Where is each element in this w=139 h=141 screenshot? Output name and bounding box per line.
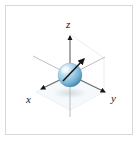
axis-label-y: y [111,93,116,104]
figure-container: z x y [0,0,139,141]
origin-sphere [58,63,82,87]
axis-label-z: z [66,19,70,30]
axis-label-x: x [26,94,31,105]
